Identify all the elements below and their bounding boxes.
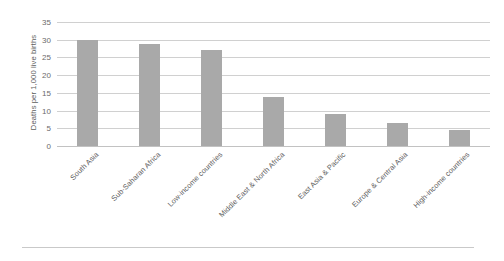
y-tick-label-30: 30 xyxy=(42,35,51,44)
bar xyxy=(139,44,160,146)
x-axis-label: Europe & Central Asia xyxy=(350,150,409,209)
bar xyxy=(263,97,284,146)
bar xyxy=(201,50,222,146)
y-tick-label-15: 15 xyxy=(42,88,51,97)
plot-area: 05101520253035 xyxy=(57,22,490,146)
bars xyxy=(57,22,490,146)
x-axis-label: East Asia & Pacific xyxy=(296,150,347,201)
x-axis-category-labels: South AsiaSub-Saharan AfricaLow-income c… xyxy=(57,146,490,236)
bottom-divider xyxy=(22,247,474,248)
y-tick-label-25: 25 xyxy=(42,53,51,62)
bar xyxy=(449,130,470,146)
x-axis-label: Sub-Saharan Africa xyxy=(109,150,162,203)
x-axis-label: South Asia xyxy=(68,150,100,182)
x-axis-label: Low-income countries xyxy=(165,150,224,209)
y-tick-label-10: 10 xyxy=(42,106,51,115)
y-tick-label-0: 0 xyxy=(47,142,51,151)
x-axis-label: High-income countries xyxy=(412,150,472,210)
bar xyxy=(325,114,346,146)
bar xyxy=(77,40,98,146)
bar xyxy=(387,123,408,146)
y-tick-label-35: 35 xyxy=(42,18,51,27)
y-tick-label-20: 20 xyxy=(42,71,51,80)
y-tick-label-5: 5 xyxy=(47,124,51,133)
bar-chart: Deaths per 1,000 live births 05101520253… xyxy=(0,0,504,261)
y-axis-title: Deaths per 1,000 live births xyxy=(29,13,38,153)
x-axis-label: Middle East & North Africa xyxy=(217,150,286,219)
